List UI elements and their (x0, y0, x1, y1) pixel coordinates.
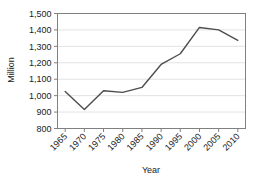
y-axis-tick-label: 1,100 (29, 74, 52, 84)
y-axis-tick-label: 1,400 (29, 25, 52, 35)
y-axis-tick-label: 1,200 (29, 58, 52, 68)
y-axis-tick-label: 800 (36, 124, 51, 134)
y-axis-tick-label: 1,300 (29, 42, 52, 52)
y-axis-tick-label: 1,000 (29, 91, 52, 101)
y-axis-tick-label: 900 (36, 107, 51, 117)
line-chart: 8009001,0001,1001,2001,3001,4001,500 196… (0, 0, 263, 185)
x-axis-title: Year (142, 165, 160, 175)
chart-canvas: 8009001,0001,1001,2001,3001,4001,500 196… (0, 0, 263, 185)
y-axis-tick-label: 1,500 (29, 9, 52, 19)
y-axis-title: Million (6, 57, 16, 83)
